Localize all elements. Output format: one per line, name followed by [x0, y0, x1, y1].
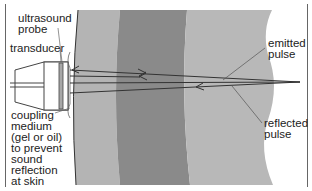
transducer-element [59, 63, 63, 109]
probe-head [44, 62, 68, 110]
tissue-layer-outer [73, 10, 120, 185]
label-transducer: transducer [10, 43, 64, 54]
tissue-layer-middle [116, 10, 190, 185]
label-emitted-pulse: emitted pulse [268, 38, 306, 60]
label-coupling-medium: coupling medium (gel or oil) to prevent … [11, 110, 62, 187]
label-ultrasound-probe: ultrasound probe [18, 13, 72, 35]
ultrasound-diagram: ultrasound probe transducer coupling med… [0, 0, 312, 191]
label-reflected-pulse: reflected pulse [264, 118, 308, 140]
tissue-layer-inner [184, 10, 274, 185]
